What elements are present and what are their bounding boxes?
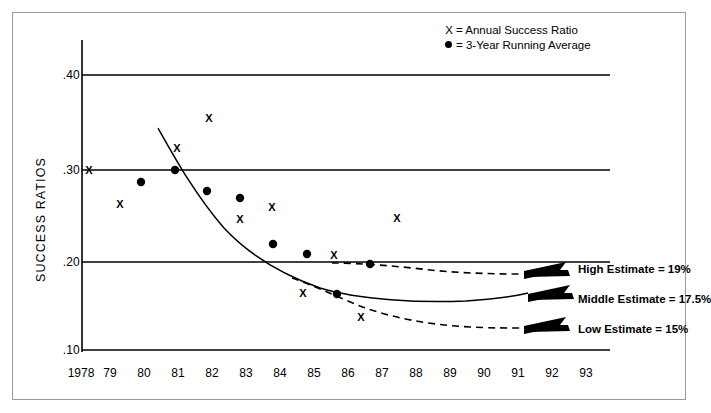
low-estimate-curve [292,278,522,328]
avg-dot-1986 [333,290,341,298]
avg-dot-1982 [203,187,211,195]
legend-label-annual: = Annual Success Ratio [456,24,578,36]
avg-dot-1980 [137,178,145,186]
low-estimate-label: Low Estimate = 15% [578,323,688,335]
annual-x-marker: X [299,287,306,299]
annual-x-marker: X [330,249,337,261]
avg-dot-1984 [269,240,277,248]
low-estimate-arrow [524,317,570,334]
middle-estimate-arrow [528,285,574,302]
annual-x-marker: X [393,212,400,224]
legend-dot-icon [445,41,452,48]
legend-label-average: = 3-Year Running Average [456,39,591,51]
high-estimate-arrow [524,262,570,279]
annual-x-marker: X [268,201,275,213]
high-estimate-label: High Estimate = 19% [578,263,691,275]
high-estimate-curve [332,263,520,274]
chart-legend: X = Annual Success Ratio = 3-Year Runnin… [442,22,591,52]
avg-dot-1981 [171,166,179,174]
legend-item-average: = 3-Year Running Average [442,37,591,52]
avg-dot-1983 [236,194,244,202]
legend-item-annual: X = Annual Success Ratio [442,22,591,37]
avg-dot-1985 [303,250,311,258]
trend-curve [158,128,528,302]
annual-x-marker: X [173,142,180,154]
annual-x-marker: X [205,112,212,124]
annual-x-marker: X [357,311,364,323]
annual-x-marker: X [236,213,243,225]
legend-x-icon: X [442,24,456,36]
middle-estimate-label: Middle Estimate = 17.5% [578,293,711,305]
annual-x-marker: X [116,198,123,210]
annual-x-marker: X [85,164,92,176]
avg-dot-1987 [366,260,374,268]
